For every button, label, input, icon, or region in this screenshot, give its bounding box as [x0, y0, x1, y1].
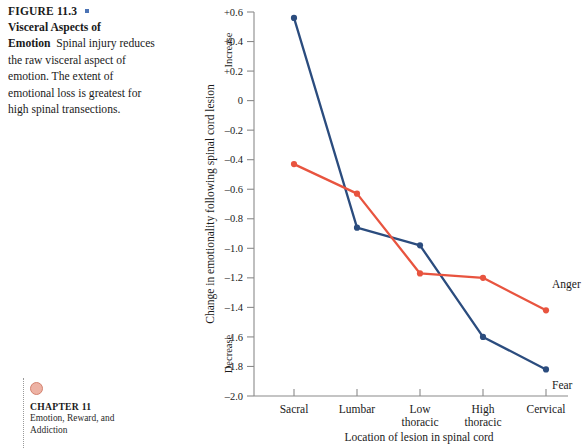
- y-tick-label: –0.8: [224, 213, 243, 224]
- data-point-fear: [543, 366, 549, 372]
- series-label-anger: Anger: [552, 278, 581, 291]
- line-chart: +0.6+0.4+0.20–0.2–0.4–0.6–0.8–1.0–1.2–1.…: [168, 0, 586, 448]
- chapter-dot-icon: [30, 382, 43, 395]
- x-category-label: Low: [409, 403, 431, 415]
- x-axis-title: Location of lesion in spinal cord: [344, 431, 493, 444]
- series-label-fear: Fear: [552, 379, 573, 391]
- y-tick-label: –0.6: [224, 184, 243, 195]
- x-axis: SacralLumbarLowthoracicHighthoracicCervi…: [254, 389, 568, 428]
- figure-label-line: FIGURE 11.3: [8, 4, 158, 19]
- y-axis-increase-label: Increase: [223, 32, 234, 67]
- chapter-number: CHAPTER 11: [30, 401, 150, 413]
- data-point-fear: [291, 15, 297, 21]
- data-point-anger: [291, 161, 297, 167]
- y-tick-label: –0.4: [224, 154, 244, 165]
- x-category-label: thoracic: [464, 416, 501, 428]
- data-point-fear: [480, 334, 486, 340]
- y-tick-label: –1.2: [224, 272, 243, 283]
- data-point-anger: [354, 191, 360, 197]
- y-axis-decrease-label: Decrease: [223, 334, 234, 373]
- figure-page: FIGURE 11.3 Visceral Aspects of Emotion …: [0, 0, 586, 448]
- chapter-dotted-rule: [23, 378, 24, 448]
- y-tick-label: –2.0: [224, 391, 243, 402]
- axis-label-layer: Location of lesion in spinal cordChange …: [204, 32, 494, 444]
- x-category-label: High: [472, 403, 495, 416]
- data-point-fear: [417, 242, 423, 248]
- x-category-label: Lumbar: [339, 403, 376, 415]
- figure-bullet-icon: [85, 9, 89, 13]
- series-line-anger: [294, 164, 546, 310]
- series-layer: FearAnger: [291, 15, 581, 392]
- y-tick-label: –1.4: [224, 302, 244, 313]
- data-point-anger: [543, 307, 549, 313]
- data-point-anger: [417, 270, 423, 276]
- data-point-anger: [480, 275, 486, 281]
- chapter-subtitle: Emotion, Reward, and Addiction: [30, 413, 150, 436]
- series-line-fear: [294, 18, 546, 370]
- x-category-label: Cervical: [527, 403, 566, 415]
- y-axis-title: Change in emotionality following spinal …: [204, 84, 217, 324]
- x-category-label: Sacral: [280, 403, 309, 415]
- y-tick-label: 0: [238, 95, 243, 106]
- figure-label: FIGURE 11.3: [8, 5, 77, 17]
- chart-canvas: +0.6+0.4+0.20–0.2–0.4–0.6–0.8–1.0–1.2–1.…: [168, 0, 586, 448]
- chapter-marker: CHAPTER 11 Emotion, Reward, and Addictio…: [30, 382, 150, 436]
- data-point-fear: [354, 225, 360, 231]
- x-category-label: thoracic: [401, 416, 438, 428]
- y-tick-label: +0.6: [224, 7, 243, 18]
- figure-caption-block: FIGURE 11.3 Visceral Aspects of Emotion …: [8, 4, 158, 118]
- figure-caption-body: Visceral Aspects of Emotion Spinal injur…: [8, 20, 158, 118]
- y-tick-label: –0.2: [224, 125, 243, 136]
- y-tick-label: –1.0: [224, 243, 243, 254]
